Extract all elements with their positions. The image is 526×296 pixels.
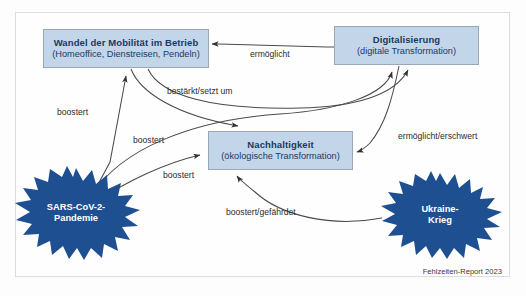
node-digitalisierung-title: Digitalisierung [373,34,440,45]
node-nachhaltigkeit-subtitle: (ökologische Transformation) [221,151,339,162]
edge-label-bestaerkt-setzt-um: bestärkt/setzt um [167,86,232,96]
node-digitalisierung[interactable]: Digitalisierung (digitale Transformation… [334,26,479,65]
node-nachhaltigkeit-title: Nachhaltigkeit [247,139,313,150]
node-wandel-subtitle: (Homeoffice, Dienstreisen, Pendeln) [52,49,199,60]
edge-label-boostert-1: boostert [57,107,88,117]
edge-wandel-to-nachhaltigkeit [131,69,238,126]
edge-label-ermoeglicht: ermöglicht [250,49,290,59]
node-wandel-der-mobilitaet[interactable]: Wandel der Mobilität im Betrieb (Homeoff… [43,29,209,68]
node-ukraine-krieg[interactable]: Ukraine- Krieg [378,170,502,260]
diagram-canvas: Wandel der Mobilität im Betrieb (Homeoff… [0,0,526,296]
edge-digitalisierung-to-wandel [212,44,334,47]
edge-label-boostert-gefaehrdet: boostert/gefährdet [226,207,296,217]
node-digitalisierung-subtitle: (digitale Transformation) [357,46,456,57]
starburst-icon [378,170,502,260]
edge-label-boostert-2: boostert [133,135,164,145]
edge-digitalisierung-to-nachhaltigkeit [357,66,399,152]
starburst-icon [12,165,140,261]
edge-label-boostert-3: boostert [163,170,194,180]
source-credit: Fehlzeiten-Report 2023 [423,267,502,276]
edge-label-ermoeglicht-erschwert: ermöglicht/erschwert [398,131,477,141]
node-nachhaltigkeit[interactable]: Nachhaltigkeit (ökologische Transformati… [208,131,353,170]
node-wandel-title: Wandel der Mobilität im Betrieb [54,37,199,48]
node-sars-cov-2-pandemie[interactable]: SARS-CoV-2- Pandemie [12,165,140,261]
